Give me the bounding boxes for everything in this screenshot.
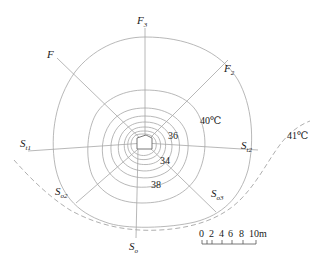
- contour-labels: 36 34 38 40℃ 41℃: [151, 115, 308, 190]
- contour-label-38: 38: [151, 179, 161, 190]
- temperature-contour-diagram: F3 F2 F St1 St2 So2 So3 So 36 34 38 40℃ …: [0, 0, 323, 269]
- contour-label-34: 34: [160, 155, 170, 166]
- contour-41-dashed: [14, 121, 310, 230]
- ray-f2: [145, 60, 228, 143]
- scale-tick-6: 6: [228, 228, 233, 239]
- ray-so3: [145, 143, 216, 212]
- scale-bar: 0 2 4 6 8 10m: [199, 228, 267, 244]
- scale-tick-10m: 10m: [249, 228, 267, 239]
- contour-label-41: 41℃: [287, 130, 308, 141]
- scale-tick-8: 8: [239, 228, 244, 239]
- scale-tick-2: 2: [209, 228, 214, 239]
- label-st2: St2: [241, 139, 252, 154]
- scale-tick-4: 4: [219, 228, 224, 239]
- label-f3: F3: [136, 14, 148, 29]
- working-face: [137, 135, 152, 149]
- contour-label-40: 40℃: [200, 115, 221, 126]
- rays: [28, 28, 258, 238]
- contour-label-36: 36: [168, 130, 178, 141]
- ray-so2: [76, 143, 145, 203]
- label-f2: F2: [223, 62, 235, 77]
- scale-tick-0: 0: [199, 228, 204, 239]
- label-st1: St1: [20, 137, 31, 152]
- label-so2: So2: [55, 185, 68, 200]
- label-so3: So3: [211, 187, 224, 202]
- label-f: F: [46, 48, 54, 60]
- label-so: So: [129, 240, 139, 255]
